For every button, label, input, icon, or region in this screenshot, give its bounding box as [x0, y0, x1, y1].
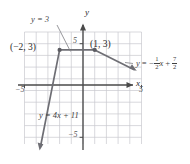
y-equals-3-leader [57, 25, 71, 52]
equation-label-middle: y = 3 [31, 14, 49, 24]
y-axis-arrow [80, 24, 86, 31]
right-eq-plus: + [163, 58, 172, 68]
fraction-numerator-7: 7 [172, 56, 177, 63]
point-label-1-3: (1, 3) [90, 39, 111, 49]
left-ray-arrow [38, 143, 44, 151]
right-equation-leader [125, 63, 133, 64]
branch-right [95, 50, 135, 70]
y-tick-label-5: 5 [73, 36, 77, 45]
point-label-neg2-3: (−2, 3) [10, 42, 36, 52]
equation-label-left: y = 4x + 11 [39, 110, 79, 120]
y-tick-label-neg5: −5 [68, 130, 77, 139]
function-graph [41, 50, 134, 145]
graph-figure: y = 3 y = 4x + 11 (−2, 3) (1, 3) y=−12x+… [0, 0, 190, 164]
y-axis-name: y [85, 7, 89, 17]
fraction-denominator-2b: 2 [172, 63, 177, 71]
equation-label-right: y=−12x+72 [136, 56, 177, 70]
x-tick-label-neg5: −5 [15, 85, 24, 94]
right-eq-equals: = [140, 58, 149, 68]
vertex-point-neg2-3 [58, 48, 62, 52]
right-eq-fraction-seven-halves: 72 [172, 56, 177, 70]
x-axis-name: x [136, 78, 140, 88]
branch-left [41, 50, 60, 145]
coordinate-plane [0, 0, 190, 164]
